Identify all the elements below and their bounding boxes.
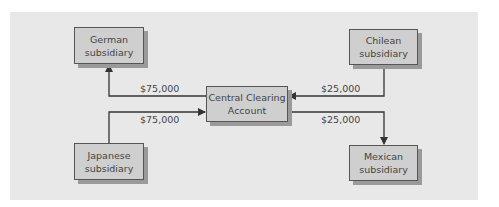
flow-amount-from-chilean: $25,000 (321, 83, 360, 94)
node-label: German (90, 33, 128, 46)
node-label: Account (228, 104, 266, 117)
german-subsidiary-node: German subsidiary (74, 27, 144, 64)
node-label: subsidiary (85, 46, 134, 59)
mexican-subsidiary-node: Mexican subsidiary (349, 145, 418, 181)
node-label: subsidiary (359, 47, 408, 60)
flow-amount-from-japanese: $75,000 (140, 114, 179, 125)
node-label: Japanese (87, 149, 130, 162)
flow-amount-to-mexican: $25,000 (321, 114, 360, 125)
node-label: subsidiary (85, 162, 134, 175)
node-label: Mexican (364, 150, 403, 163)
chilean-subsidiary-node: Chilean subsidiary (349, 29, 418, 65)
node-label: subsidiary (359, 163, 408, 176)
node-label: Central Clearing (208, 91, 285, 104)
flow-amount-to-german: $75,000 (140, 83, 179, 94)
node-label: Chilean (366, 34, 402, 47)
japanese-subsidiary-node: Japanese subsidiary (74, 143, 144, 180)
central-clearing-account-node: Central Clearing Account (206, 86, 288, 122)
